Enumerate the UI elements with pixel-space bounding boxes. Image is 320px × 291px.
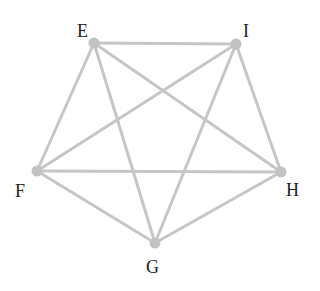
node-label-e: E [77,22,88,40]
node-f [32,166,43,177]
edge-f-h [37,171,281,172]
edge-e-h [94,43,281,172]
graph-canvas [0,0,320,291]
node-label-h: H [286,181,299,199]
node-label-g: G [146,258,159,276]
node-g [150,238,161,249]
edge-h-g [155,172,281,243]
edge-i-g [155,44,236,243]
node-i [231,39,242,50]
node-e [89,38,100,49]
edge-e-i [94,43,236,44]
nodes-group [32,38,287,249]
edges-group [37,43,281,243]
graph-diagram: E I F H G [0,0,320,291]
node-h [276,167,287,178]
node-label-f: F [15,182,25,200]
node-label-i: I [243,22,249,40]
edge-i-h [236,44,281,172]
